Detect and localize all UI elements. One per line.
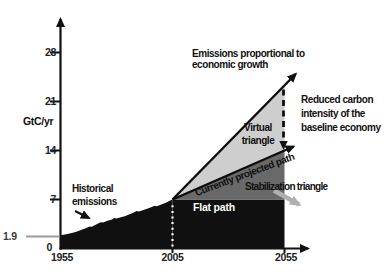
stabilization-wedges-chart: GtC/yr 28 21 14 7 0 1.9 1955 2005 2055 E… — [0, 0, 392, 279]
flat-path-label: Flat path — [193, 202, 235, 214]
reduced-carbon-label-line2: intensity of the — [301, 108, 365, 119]
y-tick-label-21: 21 — [26, 95, 56, 107]
virtual-triangle-label-line1: Virtual — [229, 122, 287, 133]
emissions-growth-label-line1: Emissions proportional to — [192, 48, 305, 59]
y-tick-label-14: 14 — [26, 144, 56, 156]
y-tick-label-7: 7 — [26, 193, 56, 205]
start-value-label: 1.9 — [3, 231, 17, 243]
x-tick-label-1955: 1955 — [40, 251, 84, 263]
historical-emissions-area — [61, 200, 173, 249]
chart-canvas — [0, 0, 392, 279]
x-tick-label-2055: 2055 — [264, 251, 308, 263]
historical-annotation-arrow — [75, 211, 89, 218]
virtual-triangle-label-line2: triangle — [229, 135, 287, 146]
stabilization-triangle-label: Stabilization triangle — [245, 181, 327, 192]
emissions-growth-label-line2: economic growth — [192, 59, 268, 70]
historical-emissions-label-line2: emissions — [72, 196, 117, 207]
historical-emissions-label-line1: Historical — [72, 183, 113, 194]
reduced-carbon-label-line3: baseline economy — [301, 122, 381, 133]
y-tick-label-28: 28 — [26, 46, 56, 58]
y-axis-unit-label: GtC/yr — [23, 116, 53, 128]
x-tick-label-2005: 2005 — [151, 251, 195, 263]
reduced-carbon-label-line1: Reduced carbon — [301, 94, 373, 105]
